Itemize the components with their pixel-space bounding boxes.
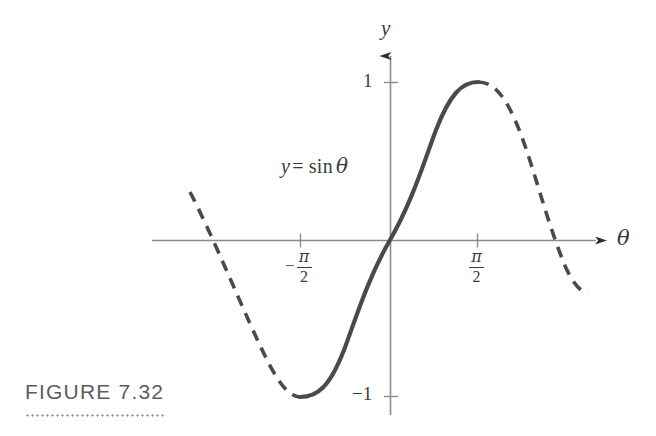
fraction-denominator: 2 [471,269,483,286]
figure-caption: FIGURE 7.32 [25,380,164,404]
caption-dotted-rule [25,414,166,417]
equation-variable: θ [333,154,348,178]
equation-operator: = [290,155,306,177]
equation-function: sin [306,155,333,177]
x-tick-label-neg-pi-over-2: − π 2 [285,249,312,285]
fraction-pi-over-two: π 2 [469,249,484,285]
sine-curve-dashed-left [190,192,300,397]
x-axis-label: θ [617,228,630,249]
y-tick-label-one: 1 [363,71,373,90]
equation-annotation: y=sinθ [281,156,348,176]
y-axis-label: y [381,18,390,39]
fraction-numerator: π [469,249,484,266]
y-tick-label-negative-one: −1 [352,384,372,403]
equation-lhs: y [281,155,290,177]
fraction-pi-over-two: π 2 [297,249,312,285]
x-tick-label-pi-over-2: π 2 [469,249,484,285]
sine-graph-svg [0,0,656,436]
figure-container: y θ 1 −1 − π 2 π 2 y=sinθ FIGURE 7.32 [0,0,656,436]
minus-sign: − [285,256,297,278]
fraction-denominator: 2 [298,269,310,286]
sine-curve-solid [300,82,478,397]
sine-curve-dashed-right [478,82,588,293]
fraction-numerator: π [297,249,312,266]
